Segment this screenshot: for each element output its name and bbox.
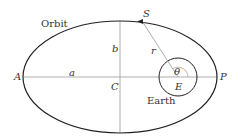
orbit-label: Orbit (41, 18, 68, 29)
theta-label: θ (174, 66, 180, 77)
direction-arrow-icon (137, 19, 143, 24)
r-label: r (151, 45, 157, 56)
b-label: b (112, 43, 118, 54)
point-s-label: S (143, 8, 150, 19)
point-p-label: P (219, 71, 227, 82)
orbit-diagram: Orbit S b r θ A a P C E Earth (0, 0, 239, 140)
center-c-label: C (111, 81, 119, 92)
earth-label: Earth (147, 95, 176, 106)
a-label: a (69, 67, 75, 78)
point-a-label: A (13, 71, 21, 82)
focus-e-label: E (174, 81, 183, 92)
